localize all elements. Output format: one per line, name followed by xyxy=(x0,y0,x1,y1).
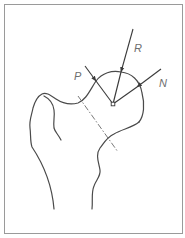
greater-trochanter-outline xyxy=(30,81,96,209)
medial-neck-outline xyxy=(92,122,139,209)
force-N-arrow xyxy=(137,69,161,87)
label-P: P xyxy=(74,70,82,82)
femur-force-diagram: R P N xyxy=(0,0,185,238)
center-point-marker xyxy=(111,102,115,106)
force-P-arrow xyxy=(85,66,96,81)
force-R-arrow xyxy=(121,29,133,72)
label-R: R xyxy=(134,42,142,54)
figure-border xyxy=(5,5,183,234)
trochanter-notch xyxy=(44,96,61,140)
femoral-head-outline xyxy=(96,71,144,122)
P-to-center-line xyxy=(96,81,113,104)
label-N: N xyxy=(159,77,167,89)
femur-outline xyxy=(30,71,144,209)
force-vectors xyxy=(85,29,161,104)
